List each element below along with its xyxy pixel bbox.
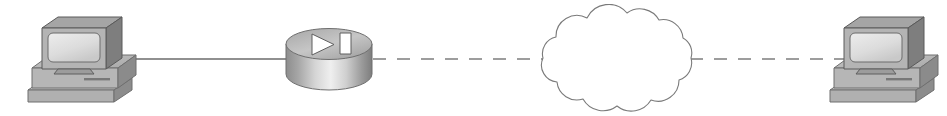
router[interactable] [286, 29, 372, 91]
network-diagram-svg: Network topology: workstation to router … [0, 0, 947, 116]
network-diagram: Network topology: workstation to router … [0, 0, 947, 116]
workstation-left[interactable] [28, 17, 136, 102]
workstation-right[interactable] [830, 17, 938, 102]
workstation-icon [28, 17, 136, 102]
wan-cloud[interactable] [541, 4, 691, 111]
router-icon [286, 29, 372, 91]
cloud-icon [541, 4, 691, 111]
nodes-layer [28, 4, 938, 111]
workstation-icon [830, 17, 938, 102]
